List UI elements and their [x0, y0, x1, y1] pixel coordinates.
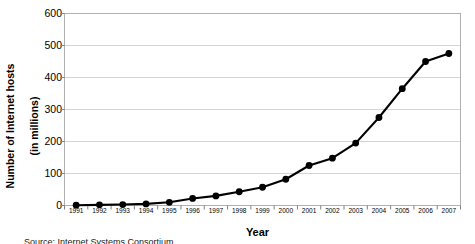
data-series-line [76, 54, 449, 206]
data-point [306, 162, 313, 169]
data-point [422, 58, 429, 65]
data-point-markers [73, 50, 453, 208]
x-axis-tick-labels: 1991199219931994199519961997199819992000… [0, 206, 475, 220]
data-point [329, 155, 336, 162]
data-point [259, 184, 266, 191]
data-point [376, 114, 383, 121]
data-point [399, 85, 406, 92]
source-caption: Source: Internet Systems Consortium [24, 237, 474, 244]
data-point [282, 176, 289, 183]
data-point [236, 188, 243, 195]
x-tick-label: 2007 [432, 206, 466, 215]
y-axis-tick-marks [61, 14, 65, 206]
data-point [189, 195, 196, 202]
chart-figure: Number of Internet hosts (in millions) 0… [0, 0, 475, 244]
data-point [352, 140, 359, 147]
gridlines [65, 14, 461, 174]
data-point [445, 50, 452, 57]
data-point [166, 199, 173, 206]
data-point [213, 193, 220, 200]
